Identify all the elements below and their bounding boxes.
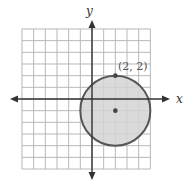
- data-point: [113, 108, 118, 113]
- x-axis-right-arrow-icon: [162, 96, 170, 103]
- y-axis-label: y: [85, 4, 93, 18]
- y-axis-down-arrow-icon: [89, 172, 96, 180]
- x-axis-left-arrow-icon: [10, 96, 18, 103]
- x-axis-label: x: [176, 92, 183, 106]
- y-axis-up-arrow-icon: [89, 20, 96, 28]
- point-label: (2, 2): [118, 60, 148, 73]
- coordinate-plane: x y (2, 2): [0, 0, 194, 190]
- data-point: [113, 73, 118, 78]
